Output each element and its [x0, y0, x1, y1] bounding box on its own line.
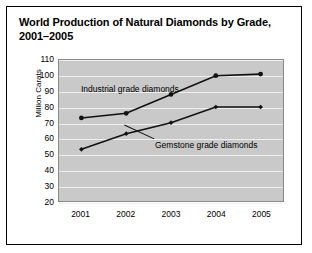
data-point [124, 131, 129, 136]
data-point [169, 120, 174, 125]
y-axis-tick: 110 [28, 54, 54, 64]
y-axis-tick: 80 [28, 102, 54, 112]
y-axis-tick: 60 [28, 133, 54, 143]
y-axis-tick: 100 [28, 70, 54, 80]
chart-title: World Production of Natural Diamonds by … [19, 15, 281, 43]
data-point [79, 147, 84, 152]
data-point [124, 111, 129, 116]
x-axis-tick: 2002 [106, 209, 146, 219]
x-axis-tick: 2003 [151, 209, 191, 219]
data-point [258, 72, 263, 77]
y-axis-tick: 50 [28, 149, 54, 159]
y-axis-tick: 70 [28, 118, 54, 128]
data-point [213, 105, 218, 110]
series-label-industrial: Industrial grade diamonds [81, 84, 179, 94]
y-axis-tick: 20 [28, 197, 54, 207]
gridline [59, 203, 283, 204]
plot-area: Industrial grade diamonds Gemstone grade… [58, 59, 284, 202]
x-axis-tick: 2005 [241, 209, 281, 219]
x-axis-tick: 2004 [196, 209, 236, 219]
series-layer [59, 60, 283, 201]
chart-figure: World Production of Natural Diamonds by … [6, 6, 302, 245]
data-point [213, 73, 218, 78]
data-point [79, 116, 84, 121]
x-axis-tick: 2001 [61, 209, 101, 219]
y-axis-tick: 90 [28, 86, 54, 96]
y-axis-tick: 40 [28, 165, 54, 175]
series-label-gemstone: Gemstone grade diamonds [155, 140, 258, 150]
y-axis-tick: 30 [28, 181, 54, 191]
data-point [258, 105, 263, 110]
